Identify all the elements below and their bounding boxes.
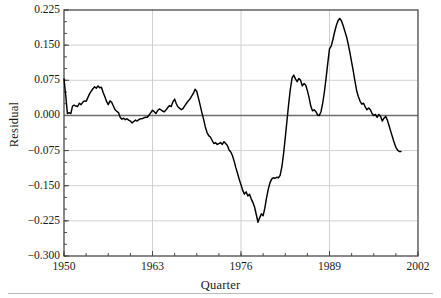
y-tick-label: 0.225	[14, 4, 60, 16]
y-tick-label: −0.225	[14, 215, 60, 227]
x-tick-label: 1976	[230, 261, 253, 273]
footer-divider	[8, 293, 433, 294]
x-tick-label: 1989	[318, 261, 341, 273]
x-axis-tick-labels: 19501963197619892002	[0, 261, 441, 277]
x-tick-label: 1950	[53, 261, 76, 273]
chart-canvas	[0, 0, 441, 298]
vertical-gridlines	[153, 10, 330, 256]
y-tick-label: 0.150	[14, 39, 60, 51]
x-tick-label: 2002	[407, 261, 430, 273]
y-axis-ticks	[64, 10, 69, 256]
x-tick-label: 1963	[141, 261, 164, 273]
x-axis-title: Quarter	[0, 278, 441, 293]
y-axis-title: Residual	[7, 85, 22, 165]
x-axis-ticks	[64, 251, 418, 256]
residual-time-series-chart: 0.2250.1500.0750.000−0.075−0.150−0.225−0…	[0, 0, 441, 298]
y-tick-label: −0.150	[14, 180, 60, 192]
data-line-residual	[64, 18, 401, 222]
